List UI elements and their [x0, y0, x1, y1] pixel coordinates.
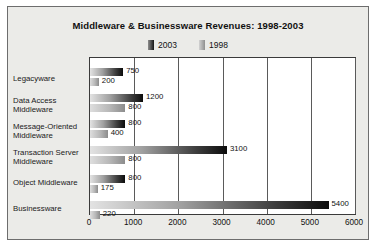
legend-swatch-1998	[199, 40, 205, 50]
chart-legend: 2003 1998	[8, 40, 368, 50]
bar-1998[interactable]	[90, 78, 99, 86]
legend-swatch-2003	[148, 40, 154, 50]
category-label-object-middleware: Object Middleware	[13, 179, 78, 188]
category-label-legacyware: Legacyware	[13, 75, 55, 84]
bar-value-2003: 5400	[332, 199, 349, 208]
bar-value-1998: 400	[111, 128, 124, 137]
value-tick-label: 1000	[124, 218, 142, 227]
category-axis-labels: Legacyware Data Access Middleware Messag…	[13, 57, 91, 215]
value-tick-label: 0	[87, 218, 92, 227]
value-tick-label: 2000	[168, 218, 186, 227]
bar-value-2003: 800	[128, 173, 141, 182]
bar-value-2003: 3100	[230, 144, 247, 153]
bar-value-2003: 750	[126, 66, 139, 75]
category-label-data-access-middleware: Data Access Middleware	[13, 97, 56, 114]
category-label-businessware: Businessware	[13, 205, 62, 214]
bar-value-2003: 800	[128, 118, 141, 127]
bar-1998[interactable]	[90, 185, 98, 193]
bar-2003[interactable]	[90, 201, 329, 209]
value-tick-label: 3000	[212, 218, 230, 227]
bar-value-1998: 200	[102, 76, 115, 85]
legend-label-2003: 2003	[158, 40, 177, 50]
legend-entry-2003[interactable]: 2003	[148, 40, 177, 50]
value-tick-label: 6000	[345, 218, 363, 227]
category-label-transaction-server-middleware: Transaction Server Middleware	[13, 149, 79, 166]
gridline	[355, 58, 356, 214]
bar-1998[interactable]	[90, 130, 108, 138]
chart-title: Middleware & Businessware Revenues: 1998…	[8, 20, 368, 31]
value-axis-labels: 0100020003000400050006000	[89, 218, 356, 232]
chart-container: Middleware & Businessware Revenues: 1998…	[7, 6, 369, 240]
bar-2003[interactable]	[90, 146, 227, 154]
bar-2003[interactable]	[90, 68, 123, 76]
bar-1998[interactable]	[90, 104, 125, 112]
legend-entry-1998[interactable]: 1998	[199, 40, 228, 50]
bars-layer: 750200120080080040031008008001755400220	[90, 58, 355, 214]
plot-area: 750200120080080040031008008001755400220	[89, 57, 356, 215]
bar-2003[interactable]	[90, 120, 125, 128]
bar-value-1998: 800	[128, 154, 141, 163]
bar-2003[interactable]	[90, 175, 125, 183]
category-label-message-oriented-middleware: Message-Oriented Middleware	[13, 123, 77, 140]
bar-value-2003: 1200	[146, 92, 163, 101]
bar-1998[interactable]	[90, 156, 125, 164]
bar-value-1998: 220	[103, 209, 116, 218]
value-tick-label: 4000	[257, 218, 275, 227]
bar-2003[interactable]	[90, 94, 143, 102]
bar-value-1998: 800	[128, 102, 141, 111]
bar-value-1998: 175	[101, 183, 114, 192]
value-tick-label: 5000	[301, 218, 319, 227]
legend-label-1998: 1998	[209, 40, 228, 50]
